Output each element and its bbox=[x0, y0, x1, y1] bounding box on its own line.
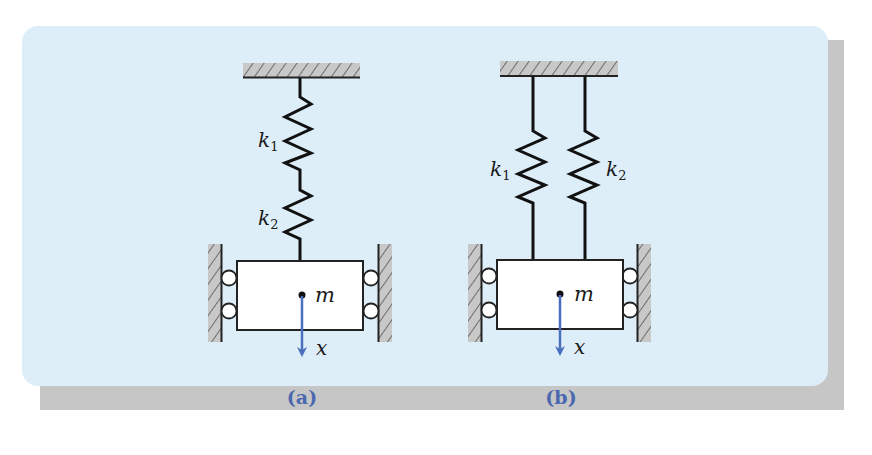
figure-background bbox=[22, 26, 828, 386]
right-wall-b bbox=[638, 244, 651, 342]
panel-caption-b: (b) bbox=[545, 386, 576, 408]
mass-label-a: m bbox=[315, 283, 335, 307]
roller-icon bbox=[623, 303, 638, 318]
ceiling-ground-a bbox=[243, 63, 360, 77]
left-wall-b bbox=[468, 244, 481, 342]
displacement-label-a: x bbox=[316, 336, 327, 360]
ceiling-ground-b bbox=[500, 61, 618, 75]
roller-icon bbox=[364, 271, 379, 286]
spring-mass-figure: k1 k2 m x (a) k1 bbox=[0, 0, 872, 455]
roller-icon bbox=[364, 304, 379, 319]
roller-icon bbox=[222, 271, 237, 286]
displacement-label-b: x bbox=[574, 335, 585, 359]
panel-caption-a: (a) bbox=[287, 386, 317, 408]
roller-icon bbox=[482, 269, 497, 284]
left-wall-a bbox=[208, 244, 221, 342]
roller-icon bbox=[623, 269, 638, 284]
right-wall-a bbox=[379, 244, 392, 342]
mass-label-b: m bbox=[574, 282, 594, 306]
roller-icon bbox=[222, 304, 237, 319]
roller-icon bbox=[482, 303, 497, 318]
